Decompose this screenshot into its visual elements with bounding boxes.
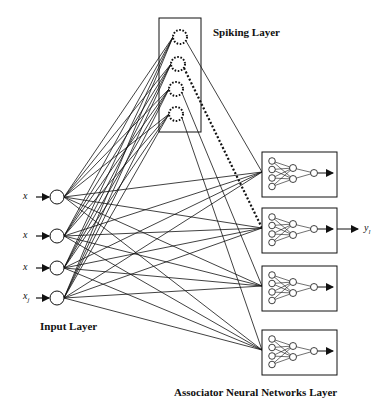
spiking-neuron [169, 82, 183, 96]
input-label-4: xj [23, 290, 29, 304]
associator-input-node [269, 353, 276, 360]
input-to-spiking-line [64, 114, 169, 197]
input-to-spiking-line [64, 114, 169, 298]
input-neuron [50, 229, 64, 243]
associator-layer-title: Associator Neural Networks Layer [174, 386, 337, 398]
associator-input-node [269, 344, 276, 351]
associator-input-node [269, 166, 276, 173]
associator-output-node [311, 284, 318, 291]
input-label-1: x [23, 190, 27, 204]
input-to-associator-line [64, 236, 262, 286]
associator-input-node [269, 289, 276, 296]
diagram-graphics [0, 0, 392, 405]
spiking-neuron [169, 107, 183, 121]
input-neuron [50, 291, 64, 305]
associator-hidden-node [290, 221, 297, 228]
associator-input-node [269, 214, 276, 221]
output-label: yl [364, 222, 370, 236]
input-to-spiking-line [64, 89, 169, 236]
input-to-spiking-line [64, 64, 171, 236]
associator-hidden-node [290, 354, 297, 361]
associator-input-node [269, 175, 276, 182]
associator-input-node [269, 280, 276, 287]
associator-network [262, 152, 337, 197]
associator-output-node [311, 226, 318, 233]
input-to-associator-line [64, 172, 262, 197]
associator-input-node [269, 361, 276, 368]
input-to-associator-line [64, 197, 262, 286]
input-to-associator-line [64, 268, 262, 350]
associator-hidden-node [290, 290, 297, 297]
neural-network-diagram: Spiking Layer Input Layer Associator Neu… [0, 0, 392, 405]
spiking-neuron [173, 30, 187, 44]
input-neuron [50, 190, 64, 204]
spiking-to-associator-line [182, 118, 262, 350]
associator-output-node [311, 348, 318, 355]
associator-hidden-node [290, 232, 297, 239]
associator-input-node [269, 183, 276, 190]
input-to-spiking-line [64, 37, 173, 268]
spiking-to-associator-line [182, 93, 262, 286]
input-label-3: x [23, 261, 27, 275]
associator-input-node [269, 222, 276, 229]
associator-output-node [311, 170, 318, 177]
associator-input-node [269, 231, 276, 238]
input-to-spiking-line [64, 37, 173, 298]
input-to-spiking-line [64, 64, 171, 268]
associator-input-node [269, 158, 276, 165]
input-to-associator-line [64, 236, 262, 350]
associator-input-node [269, 297, 276, 304]
input-to-spiking-line [64, 89, 169, 197]
input-to-associator-line [64, 268, 262, 286]
associator-hidden-node [290, 279, 297, 286]
associator-input-node [269, 272, 276, 279]
associator-network [262, 330, 337, 375]
associator-hidden-node [290, 176, 297, 183]
associator-input-node [269, 336, 276, 343]
input-label-2: x [23, 229, 27, 243]
associator-network [262, 208, 337, 253]
input-neuron [50, 261, 64, 275]
associator-network [262, 266, 337, 311]
associator-input-node [269, 239, 276, 246]
input-layer-title: Input Layer [40, 320, 97, 332]
input-to-associator-line [64, 197, 262, 228]
associator-hidden-node [290, 165, 297, 172]
associator-hidden-node [290, 343, 297, 350]
connection-lines [64, 37, 262, 350]
spiking-neuron [171, 57, 185, 71]
spiking-layer-title: Spiking Layer [213, 26, 280, 38]
